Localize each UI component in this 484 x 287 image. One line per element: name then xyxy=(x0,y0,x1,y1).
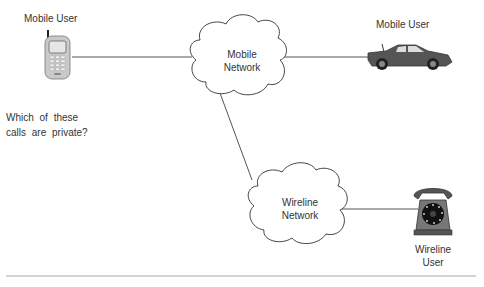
wireline-network-label: Wireline Network xyxy=(268,196,332,222)
privacy-question-line2: calls are private? xyxy=(6,125,88,140)
mobile-user-car-label: Mobile User xyxy=(376,18,429,31)
wireline-user-label-line2: User xyxy=(405,256,461,269)
bottom-divider xyxy=(6,275,476,277)
mobile-user-phone-label: Mobile User xyxy=(24,12,77,25)
mobile-network-label-line2: Network xyxy=(214,61,270,74)
privacy-question: Which of these calls are private? xyxy=(6,110,88,140)
wireline-network-label-line2: Network xyxy=(268,209,332,222)
car-icon xyxy=(368,44,452,70)
wireline-user-label: Wireline User xyxy=(405,243,461,269)
wireline-user-label-line1: Wireline xyxy=(405,243,461,256)
mobile-network-label: Mobile Network xyxy=(214,48,270,74)
privacy-question-line1: Which of these xyxy=(6,110,88,125)
wireline-network-label-line1: Wireline xyxy=(268,196,332,209)
telephone-icon xyxy=(414,189,452,236)
mobile-network-label-line1: Mobile xyxy=(214,48,270,61)
cell-phone-icon xyxy=(45,30,70,79)
edge-mobile-network-to-wireline-network xyxy=(220,93,252,180)
